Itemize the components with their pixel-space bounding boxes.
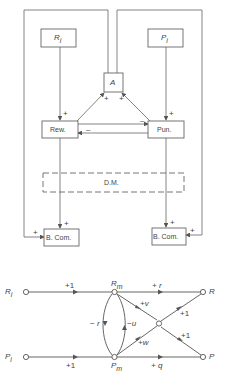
- diagram-canvas: [0, 0, 227, 384]
- box-rew-label: Rew.: [50, 126, 66, 134]
- sign-pun-bcom: +: [170, 219, 175, 227]
- node-ri: [23, 289, 28, 294]
- sign-pi-pun: +: [169, 110, 174, 118]
- sign-pun-a: +: [119, 95, 124, 103]
- node-p: [200, 354, 205, 359]
- gain-rm-center: +v: [140, 300, 149, 308]
- node-r: [200, 289, 205, 294]
- box-pi-label: Pi: [161, 34, 168, 45]
- gain-rm-pm: − r: [90, 320, 100, 328]
- box-pun-label: Pun.: [157, 126, 171, 134]
- box-a-label: A: [110, 79, 115, 87]
- gain-ri-rm: +1: [65, 282, 74, 290]
- gain-center-r: +1: [180, 310, 189, 318]
- node-pi-label: Pi: [5, 353, 12, 364]
- node-r-label: R: [209, 288, 215, 296]
- sign-pun-rew: –: [86, 126, 90, 134]
- node-pm: [112, 354, 117, 359]
- node-pm-label: Pm: [111, 362, 122, 373]
- node-pi: [23, 354, 28, 359]
- gain-rm-r: + r: [152, 282, 162, 290]
- node-rm-label: Rm: [111, 280, 123, 291]
- node-center: [156, 321, 161, 326]
- gain-pm-center: +w: [138, 339, 148, 347]
- gain-pm-p: + q: [151, 362, 162, 370]
- sign-a-bcom-left: +: [33, 229, 38, 237]
- gain-center-p: +1: [181, 332, 190, 340]
- sign-rew-bcom: +: [64, 220, 69, 228]
- node-ri-label: Ri: [5, 288, 12, 299]
- sign-ri-rew: +: [63, 110, 68, 118]
- sign-rew-a: +: [104, 95, 109, 103]
- node-p-label: P: [209, 353, 214, 361]
- sign-a-bcom-right: +: [190, 227, 195, 235]
- sign-rew-pun: –: [140, 117, 144, 125]
- gain-pi-pm: +1: [66, 362, 75, 370]
- box-bcom-right-label: B. Com.: [153, 233, 178, 241]
- box-bcom-left-label: B. Com.: [46, 234, 71, 242]
- box-ri-label: Ri: [54, 34, 61, 45]
- gain-pm-rm: −u: [127, 320, 136, 328]
- box-dm-label: D.M.: [104, 179, 119, 187]
